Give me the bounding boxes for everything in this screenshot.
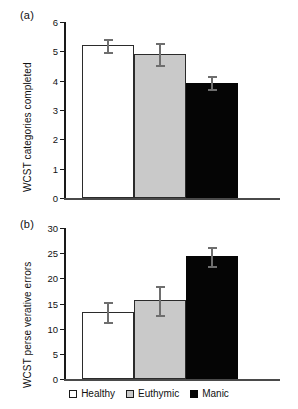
y-tick-mark bbox=[60, 354, 64, 355]
error-cap-upper bbox=[104, 39, 113, 41]
y-tick-mark bbox=[60, 379, 64, 380]
y-axis-line bbox=[64, 228, 66, 381]
y-tick-label: 30 bbox=[36, 223, 58, 234]
y-tick-mark bbox=[60, 169, 64, 170]
x-axis-line bbox=[64, 379, 280, 381]
y-tick-label: 1 bbox=[36, 164, 58, 175]
y-tick-label: 0 bbox=[36, 193, 58, 204]
legend-item-manic: Manic bbox=[190, 388, 229, 399]
error-cap-lower bbox=[156, 315, 165, 317]
legend: Healthy Euthymic Manic bbox=[0, 388, 298, 399]
error-bar-healthy bbox=[107, 39, 109, 52]
y-tick-mark bbox=[60, 253, 64, 254]
panel-b-label: (b) bbox=[20, 218, 34, 230]
y-tick-label: 5 bbox=[36, 46, 58, 57]
y-tick-mark bbox=[60, 139, 64, 140]
panel-b-y-axis-title: WCST perse verative errors bbox=[22, 262, 33, 388]
panel-a-label: (a) bbox=[20, 9, 34, 21]
error-cap-lower bbox=[104, 322, 113, 324]
legend-label-manic: Manic bbox=[202, 388, 229, 399]
error-cap-upper bbox=[208, 76, 217, 78]
y-tick-mark bbox=[60, 110, 64, 111]
error-cap-upper bbox=[156, 286, 165, 288]
error-cap-upper bbox=[104, 302, 113, 304]
bar-euthymic bbox=[134, 54, 186, 198]
error-cap-lower bbox=[208, 266, 217, 268]
bar-healthy bbox=[82, 45, 134, 198]
error-bar-healthy bbox=[107, 302, 109, 322]
bar-manic bbox=[186, 83, 238, 198]
y-tick-mark bbox=[60, 198, 64, 199]
panel-b: (b) WCST perse verative errors 051015202… bbox=[0, 210, 298, 409]
error-cap-lower bbox=[104, 52, 113, 54]
x-axis-line bbox=[64, 198, 280, 200]
legend-item-euthymic: Euthymic bbox=[126, 388, 179, 399]
error-cap-lower bbox=[208, 89, 217, 91]
y-tick-label: 0 bbox=[36, 374, 58, 385]
error-cap-upper bbox=[208, 247, 217, 249]
y-tick-mark bbox=[60, 278, 64, 279]
y-tick-mark bbox=[60, 81, 64, 82]
figure: (a) WCST categories completed 0123456 (b… bbox=[0, 0, 298, 409]
y-tick-mark bbox=[60, 304, 64, 305]
panel-a-y-axis-title: WCST categories completed bbox=[22, 62, 33, 192]
y-axis-line bbox=[64, 22, 66, 200]
error-cap-lower bbox=[156, 65, 165, 67]
y-tick-label: 2 bbox=[36, 134, 58, 145]
error-bar-euthymic bbox=[159, 286, 161, 315]
y-tick-label: 5 bbox=[36, 349, 58, 360]
error-bar-manic bbox=[211, 76, 213, 89]
y-tick-label: 20 bbox=[36, 273, 58, 284]
y-tick-label: 4 bbox=[36, 76, 58, 87]
legend-swatch-euthymic-icon bbox=[126, 390, 134, 398]
legend-label-euthymic: Euthymic bbox=[138, 388, 179, 399]
y-tick-mark bbox=[60, 329, 64, 330]
error-cap-upper bbox=[156, 43, 165, 45]
y-tick-label: 6 bbox=[36, 17, 58, 28]
error-bar-manic bbox=[211, 247, 213, 266]
y-tick-mark bbox=[60, 51, 64, 52]
panel-a: (a) WCST categories completed 0123456 bbox=[0, 0, 298, 210]
bar-manic bbox=[186, 256, 238, 379]
y-tick-mark bbox=[60, 228, 64, 229]
legend-label-healthy: Healthy bbox=[81, 388, 115, 399]
legend-swatch-healthy-icon bbox=[69, 390, 77, 398]
error-bar-euthymic bbox=[159, 43, 161, 65]
legend-swatch-manic-icon bbox=[190, 390, 198, 398]
legend-item-healthy: Healthy bbox=[69, 388, 115, 399]
y-tick-label: 10 bbox=[36, 324, 58, 335]
y-tick-label: 3 bbox=[36, 105, 58, 116]
y-tick-mark bbox=[60, 22, 64, 23]
y-tick-label: 25 bbox=[36, 248, 58, 259]
y-tick-label: 15 bbox=[36, 299, 58, 310]
